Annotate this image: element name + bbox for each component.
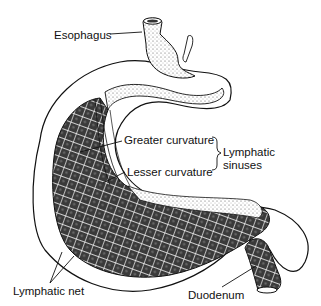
label-duodenum: Duodenum <box>188 289 244 302</box>
label-lymphatic-sinuses: Lymphatic sinuses <box>223 146 293 172</box>
label-greater-curvature: Greater curvature <box>124 134 214 147</box>
label-esophagus: Esophagus <box>54 29 112 42</box>
label-lymphatic-net: Lymphatic net <box>13 285 84 298</box>
stomach-diagram: Esophagus Greater curvature Lesser curva… <box>0 0 321 306</box>
stomach-body <box>53 98 270 277</box>
label-lesser-curvature: Lesser curvature <box>127 166 213 179</box>
